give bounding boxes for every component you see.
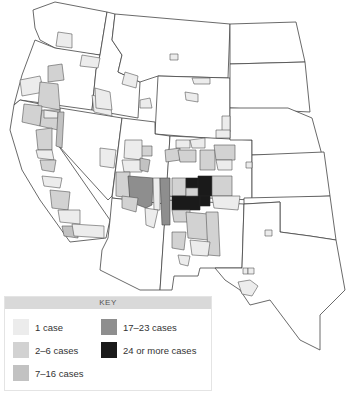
legend-label: 24 or more cases: [123, 345, 196, 356]
legend-label: 7–16 cases: [35, 368, 84, 379]
legend-item-2-6-cases: 2–6 cases: [13, 342, 78, 358]
swatch-2-6-cases: [13, 342, 29, 358]
swatch-17-23-cases: [101, 319, 117, 335]
swatch-1-case: [13, 319, 29, 335]
state-north-dakota: [230, 22, 305, 64]
legend-label: 17–23 cases: [123, 322, 177, 333]
legend-item-17-23-cases: 17–23 cases: [101, 319, 177, 335]
swatch-24-plus-cases: [101, 342, 117, 358]
legend-label: 2–6 cases: [35, 345, 78, 356]
map-legend: KEY 1 case 2–6 cases 7–16 cases 17–23 ca…: [4, 296, 212, 391]
state-south-dakota: [230, 62, 310, 112]
legend-item-7-16-cases: 7–16 cases: [13, 365, 84, 381]
legend-item-24-plus-cases: 24 or more cases: [101, 342, 196, 358]
swatch-7-16-cases: [13, 365, 29, 381]
legend-label: 1 case: [35, 322, 63, 333]
state-kansas: [252, 152, 330, 200]
state-montana: [112, 14, 230, 82]
legend-item-1-case: 1 case: [13, 319, 63, 335]
legend-title: KEY: [5, 297, 211, 309]
